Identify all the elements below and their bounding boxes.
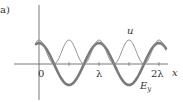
x-tick-lambda: λ xyxy=(96,69,102,79)
ey-curve-label: Ey xyxy=(140,81,151,93)
u-curve-label: u xyxy=(127,26,133,36)
x-axis-label: x xyxy=(172,68,178,78)
x-tick-2lambda: 2λ xyxy=(151,69,164,79)
wave-diagram xyxy=(0,0,183,102)
x-tick-0: 0 xyxy=(38,69,44,79)
figure-label: a) xyxy=(0,5,10,15)
